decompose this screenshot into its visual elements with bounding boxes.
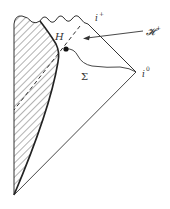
horizon-arrow: [83, 31, 143, 40]
label-i-plus: i: [95, 13, 98, 23]
label-i-plus-sup: +: [99, 10, 104, 17]
penrose-diagram: H i + 𝓗 + Σ i 0: [0, 0, 170, 209]
label-H: H: [54, 31, 64, 42]
label-i-zero: i: [142, 69, 145, 79]
singularity-line: [40, 16, 88, 24]
collapsing-star-region: [0, 0, 80, 209]
label-i-zero-sup: 0: [146, 65, 150, 72]
future-null-infinity: [88, 24, 136, 72]
horizon-point: [63, 46, 68, 51]
label-sigma: Σ: [81, 71, 88, 82]
label-future-horizon-sup: +: [156, 24, 161, 31]
sigma-surface: [66, 49, 136, 72]
